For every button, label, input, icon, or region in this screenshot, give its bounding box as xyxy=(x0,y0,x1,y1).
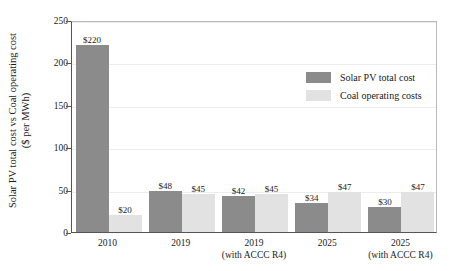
bar-value-label: $220 xyxy=(83,35,101,45)
plot-area: $220$20$48$45$42$45$34$47$30$47 Solar PV… xyxy=(71,21,437,233)
bar-solar-4 xyxy=(368,207,401,232)
x-tick-label-main: 2010 xyxy=(98,238,117,248)
bar-coal-3 xyxy=(328,192,361,232)
legend-label-solar: Solar PV total cost xyxy=(340,72,415,83)
bar-value-label: $48 xyxy=(159,181,173,191)
bar-coal-2 xyxy=(255,194,288,232)
y-tick-mark xyxy=(66,233,71,234)
y-tick-label: 100 xyxy=(40,143,68,153)
chart-figure: Solar PV total cost vs Coal operating co… xyxy=(0,0,454,271)
bar-value-label: $42 xyxy=(232,186,246,196)
bar-value-label: $45 xyxy=(192,184,206,194)
y-axis-title-line1: Solar PV total cost vs Coal operating co… xyxy=(8,32,21,207)
y-tick-label: 150 xyxy=(40,101,68,111)
legend-item-coal: Coal operating costs xyxy=(306,86,422,104)
gridline xyxy=(72,192,436,193)
x-tick-label-sub: (with ACCC R4) xyxy=(222,249,286,261)
y-axis-title: Solar PV total cost vs Coal operating co… xyxy=(0,0,40,240)
gridline xyxy=(72,22,436,23)
legend-item-solar: Solar PV total cost xyxy=(306,68,422,86)
x-tick-label: 2025(with ACCC R4) xyxy=(368,237,432,261)
x-tick-label-main: 2019 xyxy=(171,238,190,248)
bar-coal-0 xyxy=(109,215,142,232)
y-tick-label: 0 xyxy=(40,228,68,238)
x-tick-label: 2025 xyxy=(318,237,337,249)
bar-solar-3 xyxy=(295,203,328,232)
y-tick-label: 250 xyxy=(40,16,68,26)
gridline xyxy=(72,64,436,65)
legend: Solar PV total cost Coal operating costs xyxy=(306,68,422,104)
x-tick-label-sub: (with ACCC R4) xyxy=(368,249,432,261)
x-tick-label-main: 2019 xyxy=(245,238,264,248)
gridline xyxy=(72,149,436,150)
bar-value-label: $30 xyxy=(378,197,392,207)
y-tick-label: 50 xyxy=(40,186,68,196)
bar-value-label: $47 xyxy=(411,182,425,192)
legend-swatch-icon-coal xyxy=(306,90,331,101)
y-axis-title-line2: ($ per MWh) xyxy=(20,32,33,207)
bar-solar-0 xyxy=(76,45,109,232)
x-tick-label: 2010 xyxy=(98,237,117,249)
gridline xyxy=(72,107,436,108)
bar-value-label: $20 xyxy=(118,205,132,215)
x-tick-label: 2019 xyxy=(171,237,190,249)
bar-coal-4 xyxy=(401,192,434,232)
x-tick-label-main: 2025 xyxy=(391,238,410,248)
legend-swatch-icon-solar xyxy=(306,72,331,83)
bar-value-label: $47 xyxy=(338,182,352,192)
bar-coal-1 xyxy=(182,194,215,232)
y-tick-label: 200 xyxy=(40,58,68,68)
bar-value-label: $34 xyxy=(305,193,319,203)
x-tick-label: 2019(with ACCC R4) xyxy=(222,237,286,261)
legend-label-coal: Coal operating costs xyxy=(340,90,422,101)
bar-solar-1 xyxy=(149,191,182,232)
bar-solar-2 xyxy=(222,196,255,232)
x-tick-label-main: 2025 xyxy=(318,238,337,248)
bar-value-label: $45 xyxy=(265,184,279,194)
